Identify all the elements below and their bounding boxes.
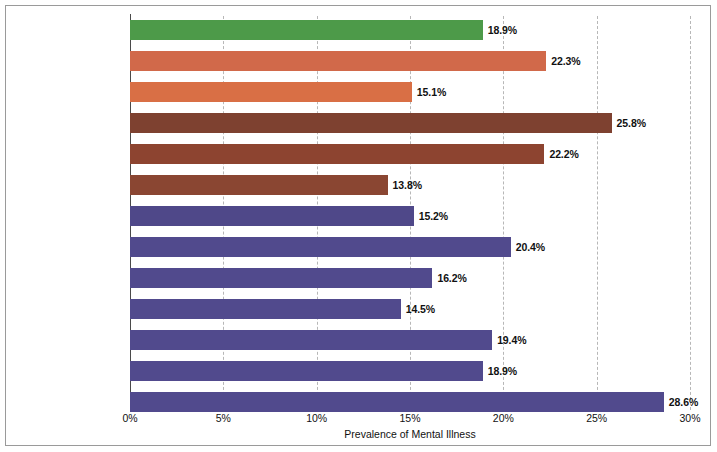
bar-value-label: 16.2%: [437, 272, 466, 284]
x-axis-label: Prevalence of Mental Illness: [344, 428, 475, 440]
bar: [130, 268, 432, 288]
bar: [130, 206, 414, 226]
x-tick-label: 5%: [216, 412, 231, 424]
bar-row: 20.4%: [130, 237, 690, 257]
bar-value-label: 19.4%: [497, 334, 526, 346]
bar-value-label: 22.2%: [549, 148, 578, 160]
bar-value-label: 18.9%: [488, 365, 517, 377]
bar: [130, 299, 401, 319]
x-tick-label: 15%: [399, 412, 420, 424]
bar: [130, 175, 388, 195]
bar-value-label: 13.8%: [393, 179, 422, 191]
bar-row: 28.6%: [130, 392, 690, 412]
bar: [130, 330, 492, 350]
bar: [130, 361, 483, 381]
bar-row: 16.2%: [130, 268, 690, 288]
x-tick-label: 20%: [493, 412, 514, 424]
bar-row: 18.9%: [130, 20, 690, 40]
chart-figure: 18.9%22.3%15.1%25.8%22.2%13.8%15.2%20.4%…: [0, 0, 717, 452]
bar-row: 13.8%: [130, 175, 690, 195]
bar-value-label: 25.8%: [617, 117, 646, 129]
x-tick-label: 25%: [586, 412, 607, 424]
bar-value-label: 22.3%: [551, 55, 580, 67]
bar: [130, 392, 664, 412]
bar-row: 25.8%: [130, 113, 690, 133]
bar-value-label: 15.2%: [419, 210, 448, 222]
x-tick-label: 10%: [306, 412, 327, 424]
bar-row: 18.9%: [130, 361, 690, 381]
bar: [130, 82, 412, 102]
bar: [130, 113, 612, 133]
bar: [130, 20, 483, 40]
bar-row: 22.3%: [130, 51, 690, 71]
bar-row: 15.2%: [130, 206, 690, 226]
gridline-30%: [690, 16, 691, 410]
plot-area: 18.9%22.3%15.1%25.8%22.2%13.8%15.2%20.4%…: [130, 16, 690, 410]
bar-value-label: 28.6%: [669, 396, 698, 408]
bar-value-label: 20.4%: [516, 241, 545, 253]
bar-row: 14.5%: [130, 299, 690, 319]
bar: [130, 144, 544, 164]
bar-row: 15.1%: [130, 82, 690, 102]
bar-value-label: 15.1%: [417, 86, 446, 98]
bar: [130, 51, 546, 71]
x-tick-label: 0%: [122, 412, 137, 424]
bar-row: 19.4%: [130, 330, 690, 350]
bar: [130, 237, 511, 257]
bar-value-label: 18.9%: [488, 24, 517, 36]
bar-value-label: 14.5%: [406, 303, 435, 315]
x-tick-label: 30%: [679, 412, 700, 424]
bar-row: 22.2%: [130, 144, 690, 164]
